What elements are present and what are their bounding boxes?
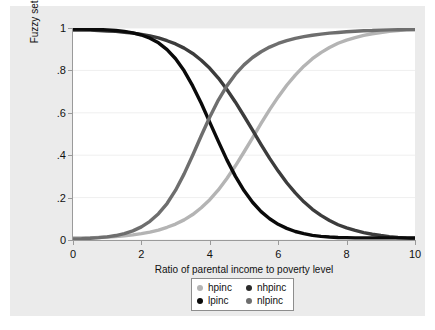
y-tick-label: .6 <box>57 107 66 119</box>
y-tick-label: 1 <box>60 22 66 34</box>
y-tick-mark <box>68 155 73 156</box>
y-tick-mark <box>68 28 73 29</box>
y-tick-mark <box>68 113 73 114</box>
plot-canvas <box>73 28 415 240</box>
legend-marker-icon <box>246 298 252 304</box>
legend-label: nlpinc <box>257 295 283 307</box>
legend: hpincnhpinclpincnlpinc <box>191 278 294 311</box>
x-tick-mark <box>278 240 279 245</box>
plot-area: Fuzzy set membership Ratio of parental i… <box>72 28 415 241</box>
x-tick-label: 4 <box>207 248 213 260</box>
x-tick-mark <box>210 240 211 245</box>
y-tick-mark <box>68 198 73 199</box>
legend-item-lpinc[interactable]: lpinc <box>197 295 232 307</box>
y-tick-label: .4 <box>57 149 66 161</box>
legend-marker-icon <box>197 298 203 304</box>
series-line-nlpinc <box>73 29 415 238</box>
y-tick-label: .2 <box>57 192 66 204</box>
x-tick-label: 2 <box>138 248 144 260</box>
series-line-nhpinc <box>73 30 415 238</box>
x-tick-label: 10 <box>409 248 421 260</box>
legend-item-hpinc[interactable]: hpinc <box>197 282 232 294</box>
legend-item-nlpinc[interactable]: nlpinc <box>246 295 286 307</box>
y-tick-label: .8 <box>57 64 66 76</box>
legend-marker-icon <box>197 285 203 291</box>
legend-item-nhpinc[interactable]: nhpinc <box>246 282 286 294</box>
legend-label: nhpinc <box>257 282 286 294</box>
x-axis-title: Ratio of parental income to poverty leve… <box>73 264 415 275</box>
graph-region: Fuzzy set membership Ratio of parental i… <box>10 6 425 316</box>
x-tick-label: 8 <box>344 248 350 260</box>
legend-marker-icon <box>246 285 252 291</box>
x-tick-mark <box>141 240 142 245</box>
legend-label: hpinc <box>208 282 232 294</box>
x-tick-mark <box>347 240 348 245</box>
series-line-lpinc <box>73 29 415 238</box>
y-tick-label: 0 <box>60 234 66 246</box>
y-axis-title: Fuzzy set membership <box>29 0 40 78</box>
chart-screenshot: Fuzzy set membership Ratio of parental i… <box>0 0 435 330</box>
x-tick-label: 0 <box>70 248 76 260</box>
legend-label: lpinc <box>208 295 229 307</box>
y-tick-mark <box>68 70 73 71</box>
series-line-hpinc <box>73 29 415 237</box>
x-tick-mark <box>415 240 416 245</box>
x-tick-mark <box>73 240 74 245</box>
x-tick-label: 6 <box>275 248 281 260</box>
